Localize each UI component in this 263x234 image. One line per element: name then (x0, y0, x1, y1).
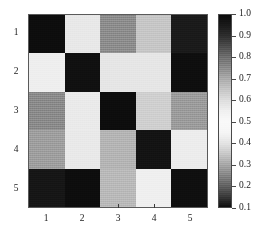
heatmap-cell-r2c3[interactable] (100, 53, 136, 91)
colorbar-tick-label-0.3: 0.3 (239, 160, 251, 170)
colorbar-tick-mark-0.7 (232, 79, 236, 80)
x-axis: 1 2 3 4 5 (28, 208, 208, 234)
colorbar-tick-mark-0.4 (232, 143, 236, 144)
heatmap-cell-r3c4[interactable] (136, 92, 172, 130)
colorbar-tick-mark-0.2 (232, 186, 236, 187)
colorbar-tick-mark-0.8 (232, 57, 236, 58)
colorbar-bar[interactable] (218, 14, 232, 208)
heatmap-grid (29, 15, 207, 207)
y-tick-label-5: 5 (5, 184, 27, 194)
y-tick-label-4: 4 (5, 145, 27, 155)
heatmap-cell-r2c2[interactable] (65, 53, 101, 91)
colorbar-tick-label-1.0: 1.0 (239, 9, 251, 19)
x-tick-label-1: 1 (34, 214, 58, 224)
heatmap-cell-r4c4[interactable] (136, 130, 172, 168)
heatmap-cell-r3c5[interactable] (171, 92, 207, 130)
colorbar-tick-label-0.7: 0.7 (239, 74, 251, 84)
heatmap-cell-r5c1[interactable] (29, 169, 65, 207)
colorbar-tick-mark-1.0 (232, 14, 236, 15)
colorbar-tick-label-0.5: 0.5 (239, 117, 251, 127)
colorbar-tick-label-0.6: 0.6 (239, 95, 251, 105)
heatmap-cell-r5c4[interactable] (136, 169, 172, 207)
x-tick-mark-4 (154, 204, 155, 208)
colorbar-tick-mark-0.6 (232, 100, 236, 101)
heatmap-cell-r4c5[interactable] (171, 130, 207, 168)
y-tick-label-3: 3 (5, 106, 27, 116)
heatmap-figure: 1 2 3 4 5 (0, 0, 263, 234)
colorbar-tick-mark-0.9 (232, 36, 236, 37)
heatmap-cell-r1c4[interactable] (136, 15, 172, 53)
x-tick-label-3: 3 (106, 214, 130, 224)
x-tick-label-5: 5 (178, 214, 202, 224)
heatmap-cell-r1c2[interactable] (65, 15, 101, 53)
heatmap-cell-r1c3[interactable] (100, 15, 136, 53)
x-tick-label-2: 2 (70, 214, 94, 224)
colorbar-tick-label-0.4: 0.4 (239, 139, 251, 149)
heatmap-cell-r3c1[interactable] (29, 92, 65, 130)
heatmap-cell-r4c1[interactable] (29, 130, 65, 168)
heatmap-cell-r2c5[interactable] (171, 53, 207, 91)
colorbar-tick-label-0.8: 0.8 (239, 52, 251, 62)
y-axis: 1 2 3 4 5 (0, 14, 27, 208)
colorbar-gradient (219, 15, 231, 207)
colorbar-tick-label-0.2: 0.2 (239, 182, 251, 192)
heatmap-cell-r1c1[interactable] (29, 15, 65, 53)
colorbar-tick-mark-0.3 (232, 165, 236, 166)
heatmap-cell-r2c4[interactable] (136, 53, 172, 91)
y-tick-label-2: 2 (5, 67, 27, 77)
x-tick-mark-3 (118, 204, 119, 208)
colorbar[interactable]: 1.00.90.80.70.60.50.40.30.20.1 (218, 14, 263, 208)
colorbar-tick-label-0.1: 0.1 (239, 203, 251, 213)
heatmap-cell-r3c3[interactable] (100, 92, 136, 130)
heatmap-cell-r2c1[interactable] (29, 53, 65, 91)
heatmap-cell-r4c3[interactable] (100, 130, 136, 168)
heatmap-plot-area[interactable] (28, 14, 208, 208)
heatmap-cell-r3c2[interactable] (65, 92, 101, 130)
heatmap-cell-r1c5[interactable] (171, 15, 207, 53)
heatmap-cell-r4c2[interactable] (65, 130, 101, 168)
heatmap-cell-r5c5[interactable] (171, 169, 207, 207)
colorbar-tick-mark-0.1 (232, 208, 236, 209)
heatmap-cell-r5c3[interactable] (100, 169, 136, 207)
heatmap-cell-r5c2[interactable] (65, 169, 101, 207)
colorbar-tick-mark-0.5 (232, 122, 236, 123)
y-tick-label-1: 1 (5, 29, 27, 39)
colorbar-tick-label-0.9: 0.9 (239, 31, 251, 41)
x-tick-label-4: 4 (142, 214, 166, 224)
